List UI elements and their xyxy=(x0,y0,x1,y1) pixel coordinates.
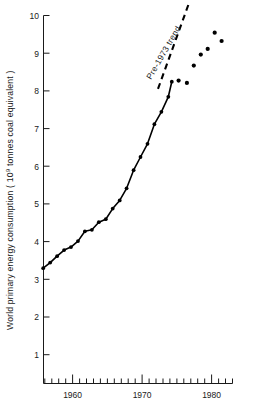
y-tick-label: 9 xyxy=(34,49,39,59)
x-tick-label-1980: 1980 xyxy=(202,390,221,400)
y-tick-label: 1 xyxy=(34,350,39,360)
y-tick-label: 6 xyxy=(34,162,39,172)
y-axis-title-suffix: tonnes coal equivalent ) xyxy=(5,70,15,168)
x-tick-label-1960: 1960 xyxy=(63,390,82,400)
y-tick-label: 10 xyxy=(30,11,40,21)
x-axis-tick-labels: 1960 1970 1980 xyxy=(63,390,221,400)
y-tick-label: 2 xyxy=(34,312,39,322)
post-1973-consumption-markers xyxy=(177,31,224,85)
y-axis-tick-labels: 10 9 8 7 6 5 4 3 2 1 xyxy=(30,11,40,360)
y-axis-title: World primary energy consumption ( 109 t… xyxy=(4,70,15,330)
observed-consumption-markers xyxy=(41,80,173,270)
observed-consumption-line xyxy=(43,82,172,269)
y-tick-label: 3 xyxy=(34,275,39,285)
y-tick-label: 7 xyxy=(34,124,39,134)
x-tick-label-1970: 1970 xyxy=(133,390,152,400)
y-tick-label: 4 xyxy=(34,237,39,247)
y-tick-label: 5 xyxy=(34,199,39,209)
x-axis-minor-ticks xyxy=(45,375,233,384)
pre-1973-trend-annotation: Pre-1973 trend xyxy=(144,24,183,81)
chart-container: 10 9 8 7 6 5 4 3 2 1 xyxy=(0,0,261,411)
y-tick-label: 8 xyxy=(34,86,39,96)
y-axis-ticks xyxy=(44,16,50,355)
y-axis-title-prefix: World primary energy consumption ( 10 xyxy=(5,172,15,330)
energy-consumption-line-chart: 10 9 8 7 6 5 4 3 2 1 xyxy=(0,0,261,411)
